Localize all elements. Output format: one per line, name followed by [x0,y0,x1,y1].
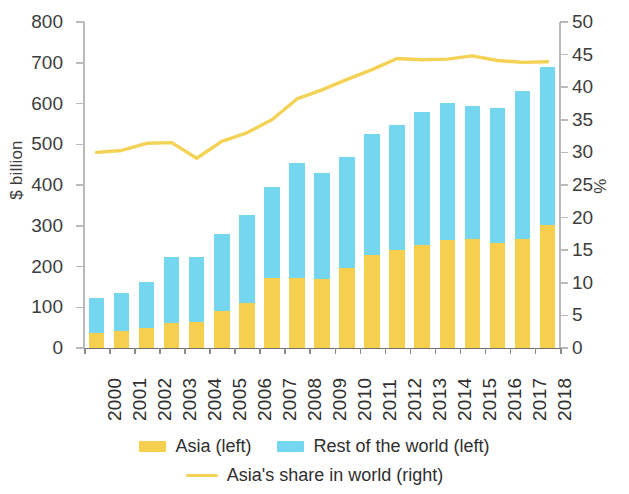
y-axis-right-tick [560,217,568,219]
share-line-series [84,22,560,348]
legend-color-swatch [139,441,166,452]
y-axis-right-tick-label: 40 [572,77,593,96]
legend-label: Rest of the world (left) [313,436,489,457]
legend-color-swatch [277,441,304,452]
y-axis-right-tick-label: 15 [572,240,593,259]
y-axis-left-tick [76,62,84,64]
x-axis-tick [84,348,86,354]
legend-item[interactable]: Rest of the world (left) [277,436,489,457]
y-axis-right-tick [560,249,568,251]
x-axis-tick [410,348,412,354]
x-axis-tick [109,348,111,354]
x-axis-tick [385,348,387,354]
legend-item[interactable]: Asia (left) [139,436,251,457]
x-axis-tick-label: 2005 [229,378,251,421]
y-axis-right-tick [560,282,568,284]
legend-row-bottom: Asia's share in world (right) [0,461,629,490]
y-axis-left-tick-label: 200 [31,257,63,276]
y-axis-left-tick-label: 400 [31,175,63,194]
y-axis-right-tick [560,184,568,186]
y-axis-left-tick [76,307,84,309]
share-line-path [97,56,548,158]
x-axis-tick-label: 2015 [479,378,501,421]
y-axis-right-tick [560,315,568,317]
x-axis-tick [435,348,437,354]
y-axis-left-tick [76,103,84,105]
x-axis-tick [209,348,211,354]
x-axis-tick-label: 2009 [329,378,351,421]
chart-figure: $ billion % 0100200300400500600700800 05… [0,0,629,494]
x-axis-tick [510,348,512,354]
x-axis-tick [284,348,286,354]
x-axis-tick-label: 2013 [429,378,451,421]
y-axis-right-tick-label: 20 [572,208,593,227]
x-axis-tick [335,348,337,354]
x-axis-tick-label: 2008 [304,378,326,421]
y-axis-right-tick-label: 35 [572,110,593,129]
x-axis-tick-label: 2014 [454,378,476,421]
x-axis-tick-label: 2010 [354,378,376,421]
y-axis-right-tick [560,119,568,121]
legend-label: Asia's share in world (right) [227,465,444,486]
y-axis-left-tick-label: 600 [31,94,63,113]
y-axis-left-tick [76,184,84,186]
x-axis-tick-label: 2016 [504,378,526,421]
x-axis-tick-label: 2002 [154,378,176,421]
x-axis-tick [360,348,362,354]
y-axis-right-tick-label: 45 [572,45,593,64]
x-axis-tick-label: 2018 [554,378,576,421]
y-axis-left-tick-label: 700 [31,53,63,72]
x-axis-tick [485,348,487,354]
x-axis-tick-label: 2012 [404,378,426,421]
x-axis-tick [309,348,311,354]
y-axis-right-tick [560,21,568,23]
y-axis-right-tick [560,54,568,56]
y-axis-right-title: % [591,166,611,206]
legend-item[interactable]: Asia's share in world (right) [186,465,444,486]
x-axis-tick [560,348,562,354]
x-axis-tick-label: 2004 [204,378,226,421]
y-axis-right-tick-label: 0 [572,338,583,357]
chart-legend: Asia (left)Rest of the world (left) Asia… [0,432,629,490]
y-axis-left-tick-label: 800 [31,12,63,31]
y-axis-left-tick [76,266,84,268]
y-axis-left-tick-label: 300 [31,216,63,235]
x-axis-tick [259,348,261,354]
y-axis-right-tick-label: 5 [572,305,583,324]
x-axis-tick-label: 2001 [129,378,151,421]
x-axis-tick-label: 2007 [279,378,301,421]
y-axis-right-tick [560,152,568,154]
y-axis-right-tick-label: 50 [572,12,593,31]
legend-label: Asia (left) [175,436,251,457]
legend-line-swatch [186,474,218,478]
x-axis-tick-label: 2006 [254,378,276,421]
y-axis-left-title: $ billion [7,120,27,220]
x-axis-tick-label: 2003 [179,378,201,421]
y-axis-left-tick [76,144,84,146]
y-axis-left-tick [76,225,84,227]
x-axis-tick-label: 2011 [379,379,401,421]
y-axis-left-tick-label: 500 [31,134,63,153]
y-axis-right-tick-label: 25 [572,175,593,194]
y-axis-left-tick-label: 100 [31,297,63,316]
y-axis-left-tick [76,21,84,23]
y-axis-right-tick [560,86,568,88]
x-axis-tick [460,348,462,354]
legend-row-top: Asia (left)Rest of the world (left) [0,432,629,461]
y-axis-right-tick-label: 30 [572,142,593,161]
x-axis-tick [159,348,161,354]
x-axis-tick-label: 2000 [104,378,126,421]
y-axis-right-tick-label: 10 [572,273,593,292]
x-axis-tick [535,348,537,354]
y-axis-left-tick-label: 0 [52,338,63,357]
x-axis-tick-label: 2017 [529,378,551,421]
y-axis-left-tick [76,347,84,349]
x-axis-tick [234,348,236,354]
x-axis-tick [184,348,186,354]
x-axis-tick [134,348,136,354]
